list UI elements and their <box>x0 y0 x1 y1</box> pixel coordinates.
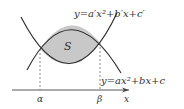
upper-curve-label: y=a′x²+b′x+c′ <box>73 8 146 19</box>
lower-curve-label: y=ax²+bx+c <box>100 75 165 86</box>
alpha-label: α <box>37 94 43 104</box>
area-between-parabolas-diagram: y=a′x²+b′x+c′ y=ax²+bx+c S α β x <box>0 0 184 109</box>
x-axis-label: x <box>124 94 129 104</box>
region-label-s: S <box>64 40 72 53</box>
beta-label: β <box>96 94 102 104</box>
